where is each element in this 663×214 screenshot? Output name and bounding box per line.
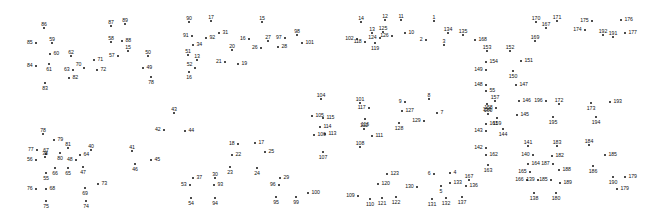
dot-number-label: 53 [181,182,187,187]
dot-number-label: 11 [398,14,403,19]
dot-number-label: 147 [519,82,527,87]
dot-marker-icon [191,35,193,37]
dot-marker-icon [487,113,489,115]
dot-marker-icon [277,46,279,48]
dot-number-label: 62 [68,50,74,55]
dot-marker-icon [509,50,511,52]
dot-number-label: 172 [555,98,563,103]
dot-number-label: 151 [524,58,532,63]
dot-marker-icon [550,179,552,181]
dot-marker-icon [54,167,56,169]
dot-marker-icon [35,65,37,67]
dot-number-label: 150 [509,74,517,79]
dot-marker-icon [592,165,594,167]
dot-marker-icon [552,163,554,165]
dot-number-label: 46 [132,167,138,172]
dot-marker-icon [474,39,476,41]
dot-number-label: 48 [67,157,73,162]
dot-marker-icon [194,67,196,69]
dot-marker-icon [35,159,37,161]
dot-number-label: 44 [188,128,194,133]
dot-marker-icon [591,20,593,22]
dot-marker-icon [496,117,498,119]
dot-marker-icon [391,35,393,37]
dot-marker-icon [210,20,212,22]
dot-number-label: 71 [97,57,103,62]
dot-number-label: 75 [43,204,49,209]
dot-marker-icon [533,192,535,194]
dot-number-label: 83 [42,86,48,91]
dot-number-label: 170 [532,16,540,21]
dot-marker-icon [485,130,487,132]
dot-number-label: 173 [587,106,595,111]
dot-number-label: 182 [555,153,563,158]
dot-number-label: 3 [443,39,446,44]
dot-number-label: 25 [268,149,274,154]
dot-number-label: 169 [531,35,539,40]
dot-number-label: 196 [534,98,542,103]
dot-number-label: 130 [405,184,413,189]
dot-number-label: 107 [319,155,327,160]
dot-number-label: 137 [458,200,466,205]
dot-marker-icon [150,76,152,78]
dot-number-label: 27 [265,35,271,40]
dot-marker-icon [440,185,442,187]
dot-marker-icon [604,154,606,156]
dot-marker-icon [485,123,487,125]
dot-marker-icon [360,21,362,23]
dot-number-label: 59 [49,37,55,42]
dot-number-label: 134 [444,27,452,32]
dot-number-label: 108 [356,141,364,146]
dot-marker-icon [68,77,70,79]
dot-marker-icon [224,61,226,63]
dot-number-label: 52 [187,62,193,67]
dot-number-label: 162 [489,152,497,157]
dot-number-label: 76 [27,186,33,191]
dot-number-label: 188 [562,167,570,172]
dot-marker-icon [485,69,487,71]
dot-number-label: 135 [459,29,467,34]
dot-number-label: 102 [345,36,353,41]
dot-marker-icon [117,55,119,57]
dot-marker-icon [449,172,451,174]
dot-number-label: 14 [358,16,364,21]
dot-number-label: 63 [64,67,70,72]
dot-number-label: 51 [185,49,191,54]
dot-number-label: 5 [440,189,443,194]
dot-number-label: 67 [43,148,49,153]
dot-marker-icon [51,42,53,44]
dot-number-label: 142 [474,145,482,150]
dot-marker-icon [75,159,77,161]
dot-number-label: 118 [354,39,362,44]
dot-marker-icon [558,103,560,105]
dot-number-label: 37 [196,175,202,180]
dot-number-label: 68 [49,186,55,191]
dot-marker-icon [485,147,487,149]
dot-number-label: 9 [399,99,402,104]
dot-number-label: 16 [240,36,246,41]
dot-marker-icon [72,69,74,71]
dot-marker-icon [275,196,277,198]
dot-marker-icon [371,135,373,137]
dot-marker-icon [43,27,45,29]
dot-number-label: 124 [368,35,376,40]
dot-marker-icon [83,67,85,69]
dot-marker-icon [609,101,611,103]
dot-number-label: 117 [358,105,366,110]
dot-number-label: 73 [101,181,107,186]
dot-number-label: 12 [382,14,388,19]
dot-number-label: 2 [420,37,423,42]
dot-marker-icon [624,176,626,178]
dot-number-label: 180 [552,196,560,201]
dot-marker-icon [527,145,529,147]
dot-number-label: 148 [474,82,482,87]
dot-number-label: 179 [620,186,628,191]
dot-number-label: 69 [82,191,88,196]
dot-number-label: 64 [83,152,89,157]
dot-marker-icon [425,39,427,41]
dot-marker-icon [260,47,262,49]
dot-number-label: 110 [366,202,374,207]
dot-marker-icon [97,183,99,185]
dot-number-label: 89 [122,18,128,23]
dot-marker-icon [512,70,514,72]
